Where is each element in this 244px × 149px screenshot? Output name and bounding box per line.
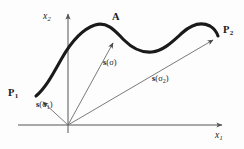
x-axis-label: x1: [215, 131, 223, 141]
vector-curve-diagram: x2 x1 P1 A P2 s(σ1) s(σ) s(σ2): [0, 0, 244, 149]
vector-label-s-sigma-2: s(σ2): [152, 74, 169, 84]
point-label-p2: P2: [223, 25, 233, 37]
point-label-p1: P1: [8, 88, 18, 100]
vector-label-s-sigma: s(σ): [103, 58, 117, 67]
vector-s-sigma-2: [68, 40, 213, 125]
vector-label-s-sigma-1: s(σ1): [36, 100, 53, 110]
y-axis-label: x2: [43, 12, 51, 22]
diagram-canvas: [0, 0, 244, 149]
space-curve: [36, 24, 218, 96]
vector-s-sigma: [68, 43, 113, 125]
point-label-a: A: [112, 12, 120, 23]
